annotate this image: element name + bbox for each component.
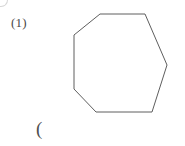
trailing-parenthesis-label: ( (36, 118, 42, 140)
figure-canvas: (1) ( (0, 0, 185, 146)
heptagon-shape-layer (0, 0, 185, 146)
heptagon-icon (74, 14, 167, 112)
